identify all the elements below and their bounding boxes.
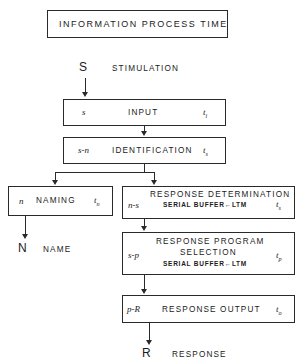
stage-code-identification-text: s-n — [78, 145, 89, 155]
connector-identification-bus — [55, 172, 155, 173]
node-name-label: NAME — [43, 245, 71, 254]
stage-time-input-sub: i — [206, 112, 208, 119]
stage-label2-response-program-selection: SELECTION — [180, 248, 237, 257]
stage-time-response-determination: ts — [276, 199, 281, 211]
connector-output-to-response — [149, 323, 150, 341]
stage-time-response-program-selection: tp — [276, 250, 282, 262]
stage-code-response-program-selection: s-p — [128, 250, 139, 260]
stage-code-input: s — [82, 107, 86, 117]
arrowhead-naming-to-name — [22, 234, 28, 239]
stage-time-response-determination-sub: s — [279, 204, 281, 211]
stage-sublabel-response-program-selection: SERIAL BUFFER←LTM — [163, 260, 247, 267]
arrowhead-stimulation-to-input — [82, 92, 88, 97]
arrowhead-bus-to-naming — [52, 180, 58, 185]
stage-label-identification: IDENTIFICATION — [112, 146, 193, 155]
stage-time-response-output: to — [276, 304, 282, 316]
stage-code-naming: n — [19, 196, 24, 206]
connector-naming-to-name — [25, 216, 26, 235]
stage-code-response-determination-text: n-s — [128, 200, 139, 210]
title-text: INFORMATION PROCESS TIME — [59, 19, 228, 29]
stage-time-input: ti — [203, 107, 207, 119]
node-response-label: RESPONSE — [172, 350, 227, 359]
node-response-symbol: R — [142, 346, 151, 360]
stage-label-input: INPUT — [128, 108, 158, 117]
stage-label-response-output: RESPONSE OUTPUT — [162, 305, 261, 314]
node-name-symbol: N — [18, 241, 27, 255]
stage-time-naming: tn — [94, 195, 100, 207]
stage-code-identification: s-n — [78, 145, 89, 155]
arrowhead-output-to-response — [146, 340, 152, 345]
stage-time-response-output-sub: o — [279, 309, 282, 316]
diagram-canvas: INFORMATION PROCESS TIME S STIMULATION s… — [0, 0, 305, 364]
stage-code-naming-text: n — [19, 196, 24, 206]
arrowhead-bus-to-response-determination — [151, 180, 157, 185]
connector-stimulation-to-input — [85, 78, 86, 93]
stage-time-identification: ts — [203, 145, 208, 157]
node-stimulation-label: STIMULATION — [112, 64, 179, 73]
stage-code-response-program-selection-text: s-p — [128, 250, 139, 260]
arrowhead-response-determination-to-selection — [141, 226, 147, 231]
stage-time-naming-sub: n — [97, 200, 100, 207]
stage-code-response-output-text: p-R — [127, 304, 140, 314]
stage-label-naming: NAMING — [36, 196, 76, 205]
node-stimulation-symbol: S — [79, 60, 88, 74]
stage-code-input-text: s — [82, 107, 86, 117]
arrowhead-input-to-identification — [141, 131, 147, 136]
stage-label-response-program-selection: RESPONSE PROGRAM — [156, 237, 264, 246]
stage-sublabel-response-determination: SERIAL BUFFER←LTM — [163, 201, 247, 208]
connector-selection-to-output — [144, 275, 145, 290]
stage-label-response-determination: RESPONSE DETERMINATION — [150, 190, 290, 199]
stage-time-identification-sub: s — [206, 150, 208, 157]
stage-code-response-output: p-R — [127, 304, 140, 314]
stage-time-response-program-selection-sub: p — [279, 255, 282, 262]
arrowhead-selection-to-output — [141, 289, 147, 294]
stage-code-response-determination: n-s — [128, 200, 139, 210]
